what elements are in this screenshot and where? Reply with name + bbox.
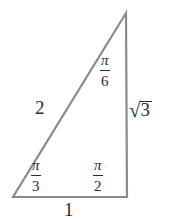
side-label-vertical: √3 xyxy=(129,100,151,121)
angle-label-bottom-left: π 3 xyxy=(31,158,41,194)
side-label-hypotenuse: 2 xyxy=(35,98,45,117)
fraction-numerator: π xyxy=(100,53,110,70)
radical-sqrt-3: √3 xyxy=(129,100,151,121)
fraction-bar xyxy=(100,70,110,71)
fraction-denominator: 3 xyxy=(31,177,41,195)
angle-label-top: π 6 xyxy=(100,53,110,89)
fraction-pi-over-3: π 3 xyxy=(31,158,41,194)
fraction-pi-over-6: π 6 xyxy=(100,53,110,89)
fraction-denominator: 2 xyxy=(93,177,103,195)
fraction-bar xyxy=(31,175,41,176)
fraction-bar xyxy=(93,175,103,176)
fraction-numerator: π xyxy=(93,158,103,175)
fraction-pi-over-2: π 2 xyxy=(93,158,103,194)
radical-radicand: 3 xyxy=(140,100,152,119)
fraction-numerator: π xyxy=(31,158,41,175)
triangle-figure: π 6 √3 2 π 3 π 2 1 xyxy=(0,0,169,220)
angle-label-bottom-right: π 2 xyxy=(93,158,103,194)
side-label-base: 1 xyxy=(64,200,74,219)
fraction-denominator: 6 xyxy=(100,72,110,90)
